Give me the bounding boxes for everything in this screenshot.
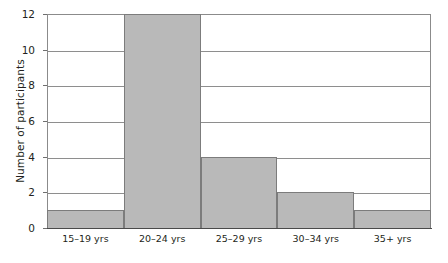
y-tick-label: 8 (9, 80, 35, 90)
bars-group (47, 14, 431, 228)
y-tick-label: 12 (9, 9, 35, 19)
x-axis-line (47, 228, 432, 229)
x-tick-label: 15–19 yrs (47, 233, 124, 245)
x-tick-label: 35+ yrs (354, 233, 431, 245)
bar (354, 210, 431, 228)
y-tick-label: 0 (9, 223, 35, 233)
bar (277, 192, 354, 228)
x-tick-label: 20–24 yrs (124, 233, 201, 245)
y-tick-label: 10 (9, 45, 35, 55)
bar-chart-figure: Number of participants 024681012 15–19 y… (0, 0, 448, 263)
y-tick-label: 6 (9, 116, 35, 126)
x-tick-label: 25–29 yrs (201, 233, 278, 245)
x-tick-label: 30–34 yrs (277, 233, 354, 245)
bar (201, 157, 278, 228)
bar (47, 210, 124, 228)
y-tick-label: 4 (9, 152, 35, 162)
y-tick-label: 2 (9, 187, 35, 197)
bar (124, 14, 201, 228)
